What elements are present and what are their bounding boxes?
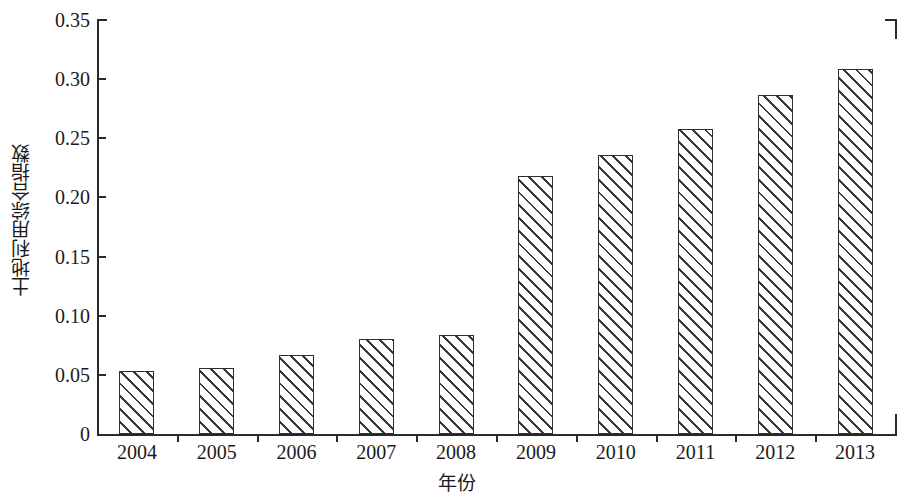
x-axis-tick-label: 2008 [436, 441, 476, 464]
y-axis-tick-mark [97, 78, 106, 80]
y-axis-tick-label: 0 [35, 424, 97, 444]
bar [119, 371, 154, 434]
y-axis-tick-mark [97, 137, 106, 139]
x-axis-tick-label: 2006 [277, 441, 317, 464]
x-axis-tick-mark [177, 434, 179, 442]
x-axis-tick-mark [257, 434, 259, 442]
y-axis-tick-labels: 00.050.100.150.200.250.300.35 [28, 0, 97, 501]
x-axis-tick-label: 2009 [516, 441, 556, 464]
x-axis-tick-label: 2011 [676, 441, 715, 464]
x-axis-tick-mark [576, 434, 578, 442]
x-axis-tick-mark [336, 434, 338, 442]
x-axis-tick-label: 2005 [197, 441, 237, 464]
bar [439, 335, 474, 434]
bar [758, 95, 793, 434]
bar-chart-figure: 土地利用综合指数 00.050.100.150.200.250.300.35 年… [0, 0, 914, 501]
bar [598, 155, 633, 434]
y-axis-tick-label: 0.15 [35, 247, 97, 267]
y-axis-tick-mark [97, 315, 106, 317]
x-axis-tick-label: 2012 [755, 441, 795, 464]
x-axis-tick-label: 2010 [596, 441, 636, 464]
y-axis-tick-mark [97, 196, 106, 198]
bar [279, 355, 314, 434]
y-axis-tick-label: 0.10 [35, 306, 97, 326]
x-axis-tick-label: 2004 [117, 441, 157, 464]
x-axis-tick-mark [656, 434, 658, 442]
bar-series [97, 20, 895, 434]
bar [838, 69, 873, 435]
y-axis-tick-label: 0.20 [35, 187, 97, 207]
y-axis-tick-label: 0.30 [35, 69, 97, 89]
y-axis-tick-label: 0.05 [35, 365, 97, 385]
x-axis-title: 年份 [0, 468, 914, 495]
bar [518, 176, 553, 434]
x-axis-tick-mark [735, 434, 737, 442]
x-axis-tick-label: 2013 [835, 441, 875, 464]
y-axis-tick-mark [97, 19, 106, 21]
y-axis-tick-mark [97, 256, 106, 258]
bar [199, 368, 234, 434]
x-axis-tick-mark [496, 434, 498, 442]
x-axis-tick-mark [416, 434, 418, 442]
x-axis-tick-label: 2007 [356, 441, 396, 464]
y-axis-tick-mark [97, 374, 106, 376]
y-axis-tick-label: 0.25 [35, 128, 97, 148]
bar [359, 339, 394, 434]
y-axis-tick-label: 0.35 [35, 10, 97, 30]
bar [678, 129, 713, 434]
x-axis-tick-mark [815, 434, 817, 442]
